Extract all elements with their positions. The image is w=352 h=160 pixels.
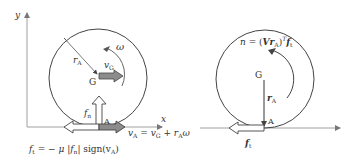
ft-label-right: ft (244, 138, 252, 149)
ft-equation: ft = − μ |fn| sign(vA) (28, 144, 119, 155)
omega-label: ω (116, 41, 124, 52)
center-g-label: G (89, 77, 96, 87)
va-equation: vA = vG + rAω (128, 128, 191, 139)
vg-arrow-icon (99, 70, 123, 82)
va-arrow-icon (99, 121, 125, 133)
ft-arrow-icon (64, 121, 99, 133)
contact-a-label-right: A (267, 117, 274, 126)
torque-arc-icon (271, 50, 294, 98)
vg-label: vG (104, 60, 114, 71)
left-diagram: y x rA ω G vG fn A (14, 10, 191, 155)
y-axis-label: y (14, 10, 21, 20)
fn-label: fn (83, 108, 91, 119)
ft-arrow-icon-right (229, 122, 264, 134)
radius-line (64, 38, 97, 74)
center-g-label-right: G (255, 70, 262, 80)
wheel-friction-diagram: y x rA ω G vG fn A (0, 0, 352, 160)
ra-label: rA (267, 93, 277, 104)
right-diagram: n = (VrA)Tft G rA A ft (200, 30, 340, 149)
torque-equation: n = (VrA)Tft (240, 35, 293, 48)
radius-start-tick (64, 38, 66, 40)
x-axis-label: x (161, 114, 166, 124)
